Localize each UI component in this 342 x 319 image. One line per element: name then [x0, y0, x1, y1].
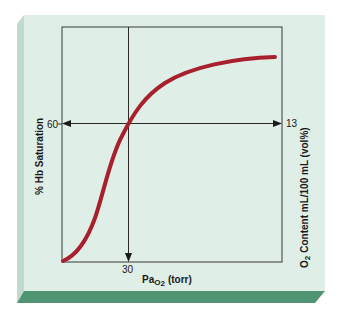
x-tick-label: 30 [122, 264, 134, 275]
oxygen-dissociation-chart: 60 13 30 PaO2(torr) % Hb Saturation O2Co… [0, 0, 342, 319]
panel-left-bevel [17, 15, 24, 303]
y-left-tick-label: 60 [47, 119, 59, 130]
y-left-axis-label: % Hb Saturation [34, 118, 45, 195]
panel-bottom-bevel [17, 291, 325, 303]
y-right-tick-label: 13 [286, 118, 298, 129]
panel-background [24, 15, 325, 292]
